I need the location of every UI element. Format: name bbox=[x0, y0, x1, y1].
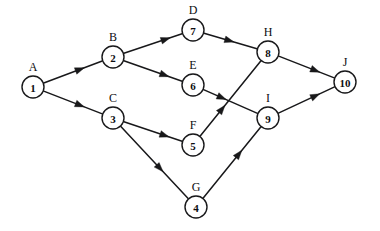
node-letter: G bbox=[192, 180, 201, 194]
edge-9-to-10 bbox=[278, 87, 334, 113]
edge-line bbox=[204, 90, 258, 114]
node-7[interactable]: 7D bbox=[182, 3, 204, 41]
arrow-head bbox=[216, 93, 226, 100]
edge-3-to-4 bbox=[121, 126, 188, 198]
arrow-head bbox=[310, 66, 320, 73]
node-number: 6 bbox=[190, 80, 196, 92]
edge-line bbox=[278, 87, 334, 113]
edge-line bbox=[200, 61, 261, 136]
edge-1-to-2 bbox=[44, 61, 102, 83]
node-letter: B bbox=[109, 30, 117, 44]
edge-line bbox=[121, 126, 188, 198]
diagram-canvas: 1A2B3C4G5F6E7D8H9I10J bbox=[0, 0, 380, 231]
node-6[interactable]: 6E bbox=[182, 58, 204, 96]
node-letter: A bbox=[29, 60, 38, 74]
edge-8-to-10 bbox=[279, 56, 335, 78]
edge-line bbox=[279, 56, 335, 78]
edge-line bbox=[124, 34, 182, 54]
node-number: 2 bbox=[110, 52, 116, 64]
edge-4-to-9 bbox=[203, 127, 261, 198]
node-2[interactable]: 2B bbox=[102, 30, 124, 68]
node-number: 10 bbox=[340, 77, 352, 89]
node-letter: J bbox=[343, 55, 348, 69]
node-9[interactable]: 9I bbox=[257, 91, 279, 129]
node-10[interactable]: 10J bbox=[334, 55, 356, 93]
node-number: 8 bbox=[265, 47, 271, 59]
edge-line bbox=[124, 61, 182, 81]
node-number: 7 bbox=[190, 25, 196, 37]
node-letter: I bbox=[266, 91, 270, 105]
node-1[interactable]: 1A bbox=[22, 60, 44, 98]
arrow-head bbox=[224, 36, 234, 43]
node-number: 1 bbox=[30, 82, 36, 94]
edge-2-to-6 bbox=[124, 61, 182, 81]
edge-line bbox=[203, 127, 261, 198]
node-number: 5 bbox=[190, 140, 196, 152]
edge-1-to-3 bbox=[44, 91, 103, 114]
node-letter: H bbox=[264, 25, 273, 39]
graph-svg: 1A2B3C4G5F6E7D8H9I10J bbox=[0, 0, 380, 231]
arrow-head bbox=[159, 131, 169, 137]
node-number: 3 bbox=[110, 113, 116, 125]
node-3[interactable]: 3C bbox=[102, 91, 124, 129]
node-letter: F bbox=[190, 118, 197, 132]
node-8[interactable]: 8H bbox=[257, 25, 279, 63]
edge-line bbox=[44, 91, 103, 114]
arrow-head bbox=[74, 68, 84, 75]
node-letter: D bbox=[189, 3, 198, 17]
edge-6-to-9 bbox=[204, 90, 258, 114]
arrow-head bbox=[74, 100, 84, 107]
node-5[interactable]: 5F bbox=[182, 118, 204, 156]
edge-7-to-8 bbox=[204, 33, 257, 49]
arrow-head bbox=[310, 94, 320, 101]
node-number: 9 bbox=[265, 113, 271, 125]
arrow-head bbox=[159, 70, 169, 76]
node-number: 4 bbox=[193, 202, 199, 214]
arrow-head bbox=[160, 37, 170, 43]
node-letter: E bbox=[189, 58, 196, 72]
node-layer: 1A2B3C4G5F6E7D8H9I10J bbox=[22, 3, 356, 218]
node-letter: C bbox=[109, 91, 117, 105]
node-4[interactable]: 4G bbox=[185, 180, 207, 218]
edge-line bbox=[44, 61, 102, 83]
edge-5-to-8 bbox=[200, 61, 261, 136]
edge-2-to-7 bbox=[124, 34, 182, 54]
